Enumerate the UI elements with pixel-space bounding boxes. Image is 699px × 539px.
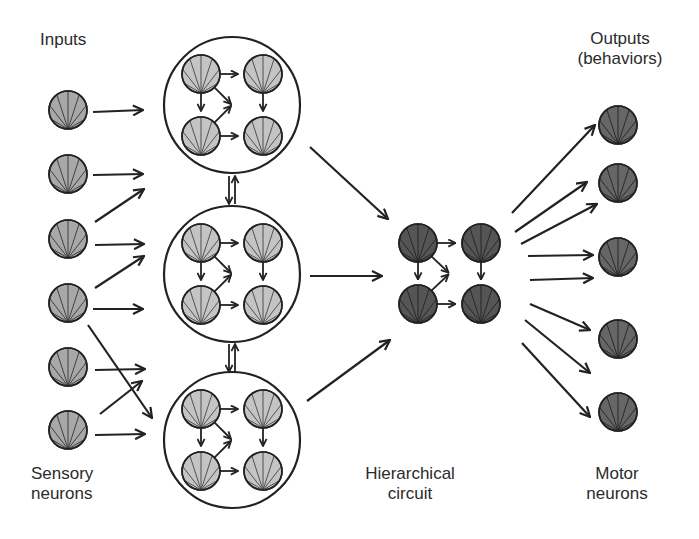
motor-label-line2: neurons — [572, 484, 662, 504]
sensory-neuron-6 — [49, 411, 87, 449]
input-arrow — [95, 189, 144, 222]
arrow — [214, 87, 231, 104]
input-arrow — [95, 256, 144, 288]
sensory-neurons-label: Sensory neurons — [31, 464, 93, 504]
output-arrow — [530, 304, 590, 330]
arrow — [431, 256, 448, 272]
motor-label-line1: Motor — [572, 464, 662, 484]
circuit-neuron-top-left — [399, 224, 437, 262]
circuit-neuron-bottom-right — [462, 285, 500, 323]
arrow — [214, 441, 231, 458]
sensory-label-line1: Sensory — [31, 464, 93, 484]
circuit-neuron-bottom-left — [399, 285, 437, 323]
outputs-label: Outputs (behaviors) — [560, 29, 680, 69]
hierarchical-label-line1: Hierarchical — [335, 464, 485, 484]
module-1 — [164, 37, 300, 173]
output-arrow — [530, 278, 593, 280]
motor-neuron-2 — [599, 164, 637, 202]
module-3-neuron-bottom-right — [244, 452, 282, 490]
module-to-circuit-arrow — [307, 340, 390, 401]
motor-neuron-3 — [599, 238, 637, 276]
module-3-neuron-top-left — [182, 390, 220, 428]
module-to-circuit-arrow — [310, 147, 388, 219]
arrow — [214, 422, 231, 439]
sensory-neuron-2 — [49, 155, 87, 193]
outputs-label-line1: Outputs — [560, 29, 680, 49]
module-1-neuron-bottom-right — [244, 117, 282, 155]
sensory-neuron-5 — [49, 348, 87, 386]
module-2-neuron-top-right — [244, 224, 282, 262]
output-arrow — [512, 125, 595, 213]
input-arrow — [88, 325, 152, 418]
input-arrow — [95, 244, 144, 245]
output-arrow — [525, 320, 590, 373]
circuit-neuron-top-right — [462, 224, 500, 262]
output-arrows — [512, 125, 597, 417]
motor-neurons-label: Motor neurons — [572, 464, 662, 504]
output-arrow — [522, 343, 590, 417]
output-arrow — [515, 182, 587, 232]
module-2-neuron-bottom-right — [244, 286, 282, 324]
processing-modules — [164, 37, 300, 508]
inputs-label: Inputs — [40, 30, 86, 50]
hierarchical-circuit-label: Hierarchical circuit — [335, 464, 485, 504]
module-3-neuron-top-right — [244, 390, 282, 428]
hierarchical-circuit — [399, 224, 500, 323]
arrow — [214, 256, 231, 273]
module-2-neuron-top-left — [182, 224, 220, 262]
motor-neuron-5 — [599, 393, 637, 431]
sensory-neuron-3 — [49, 220, 87, 258]
module-3-neuron-bottom-left — [182, 452, 220, 490]
sensory-label-line2: neurons — [31, 484, 93, 504]
module-2 — [164, 206, 300, 342]
sensory-neuron-1 — [49, 91, 87, 129]
module-1-neuron-top-left — [182, 55, 220, 93]
sensory-neurons — [49, 91, 87, 449]
input-arrow — [93, 110, 143, 112]
motor-neurons — [599, 106, 637, 431]
output-arrow — [528, 255, 593, 256]
module-1-neuron-bottom-left — [182, 117, 220, 155]
arrow — [214, 106, 231, 123]
arrow — [431, 275, 448, 291]
input-arrow — [95, 369, 145, 370]
sensory-neuron-4 — [49, 284, 87, 322]
hierarchical-label-line2: circuit — [335, 484, 485, 504]
input-arrow — [100, 381, 142, 414]
input-arrows — [88, 110, 152, 435]
input-arrow — [95, 434, 145, 435]
motor-neuron-1 — [599, 106, 637, 144]
module-3 — [164, 372, 300, 508]
neural-hierarchy-diagram — [0, 0, 699, 539]
module-2-neuron-bottom-left — [182, 286, 220, 324]
arrow — [214, 275, 231, 292]
output-arrow — [521, 204, 597, 244]
inputs-label-text: Inputs — [40, 30, 86, 50]
motor-neuron-4 — [599, 320, 637, 358]
input-arrow — [93, 174, 143, 175]
module-to-circuit-arrows — [307, 147, 390, 401]
module-1-neuron-top-right — [244, 55, 282, 93]
outputs-label-line2: (behaviors) — [560, 49, 680, 69]
